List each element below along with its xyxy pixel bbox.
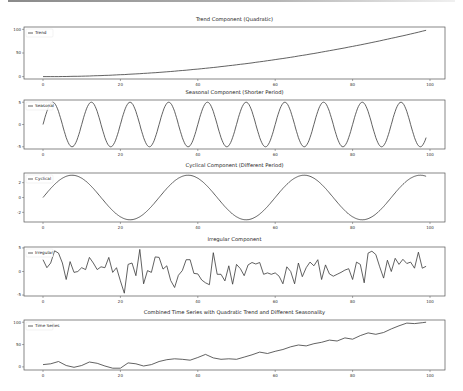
subplot-irregular: Irregular Component02040608010050-5Irreg…: [17, 236, 445, 304]
subplot-combined: Combined Time Series with Quadratic Tren…: [13, 309, 445, 378]
legend-label: Cyclical: [35, 176, 51, 181]
x-tick-label: 0: [42, 152, 45, 157]
y-tick-label: 0: [18, 74, 21, 79]
x-tick-label: 0: [42, 373, 45, 378]
x-tick-label: 60: [273, 225, 279, 230]
x-tick-label: 0: [42, 299, 45, 304]
legend: Seasonal: [26, 102, 54, 110]
legend-label: Seasonal: [35, 103, 54, 108]
subplot-title: Seasonal Component (Shorter Period): [186, 89, 284, 96]
x-tick-label: 0: [42, 225, 45, 230]
subplot-title: Irregular Component: [208, 236, 262, 243]
y-tick-label: -5: [17, 144, 21, 149]
x-tick-label: 40: [195, 373, 201, 378]
x-tick-label: 60: [273, 82, 279, 87]
axes-frame: [24, 247, 445, 296]
x-tick-label: 20: [118, 82, 124, 87]
series-line: [43, 102, 426, 147]
x-tick-label: 40: [195, 225, 201, 230]
x-tick-label: 20: [118, 225, 124, 230]
legend: Cyclical: [26, 175, 53, 183]
y-tick-label: 50: [16, 342, 22, 347]
x-tick-label: 80: [350, 373, 356, 378]
subplot-title: Cyclical Component (Different Period): [186, 162, 284, 169]
y-tick-label: 0: [18, 195, 21, 200]
series-line: [43, 175, 426, 220]
legend: Irregular: [26, 249, 53, 257]
series-line: [43, 30, 426, 76]
x-tick-label: 80: [350, 82, 356, 87]
subplot-title: Trend Component (Quadratic): [195, 16, 273, 23]
legend: Time Series: [26, 322, 59, 330]
y-tick-label: 0: [18, 122, 21, 127]
axes-frame: [24, 173, 445, 222]
x-tick-label: 20: [118, 299, 124, 304]
y-tick-label: 50: [16, 50, 22, 55]
figure: Trend Component (Quadratic)0204060801001…: [0, 0, 463, 391]
y-tick-label: 5: [18, 100, 21, 105]
x-tick-label: 100: [426, 373, 434, 378]
x-tick-label: 80: [350, 299, 356, 304]
legend-label: Trend: [34, 30, 47, 35]
y-tick-label: -2: [17, 210, 21, 215]
subplot-title: Combined Time Series with Quadratic Tren…: [144, 309, 325, 316]
axes-frame: [24, 320, 445, 370]
legend: Trend: [26, 29, 53, 37]
x-tick-label: 100: [426, 152, 434, 157]
y-tick-label: 2: [18, 180, 21, 185]
subplot-cyclical: Cyclical Component (Different Period)020…: [17, 162, 445, 230]
x-tick-label: 100: [426, 299, 434, 304]
x-tick-label: 80: [350, 225, 356, 230]
x-tick-label: 20: [118, 152, 124, 157]
x-tick-label: 60: [273, 299, 279, 304]
subplot-seasonal: Seasonal Component (Shorter Period)02040…: [17, 89, 445, 157]
x-tick-label: 40: [195, 299, 201, 304]
x-tick-label: 60: [273, 152, 279, 157]
x-tick-label: 0: [42, 82, 45, 87]
subplot-trend: Trend Component (Quadratic)0204060801001…: [13, 16, 445, 87]
x-tick-label: 40: [195, 82, 201, 87]
x-tick-label: 60: [273, 373, 279, 378]
y-tick-label: -5: [17, 292, 21, 297]
axes-frame: [24, 27, 445, 79]
x-tick-label: 40: [195, 152, 201, 157]
legend-label: Irregular: [35, 250, 53, 255]
y-tick-label: 100: [13, 27, 21, 32]
x-tick-label: 20: [118, 373, 124, 378]
x-tick-label: 80: [350, 152, 356, 157]
y-tick-label: 0: [18, 364, 21, 369]
x-tick-label: 100: [426, 225, 434, 230]
y-tick-label: 100: [13, 320, 21, 325]
series-line: [43, 322, 426, 368]
y-tick-label: 0: [18, 269, 21, 274]
y-tick-label: 5: [18, 245, 21, 250]
legend-label: Time Series: [34, 323, 59, 328]
x-tick-label: 100: [426, 82, 434, 87]
series-line: [43, 249, 426, 293]
